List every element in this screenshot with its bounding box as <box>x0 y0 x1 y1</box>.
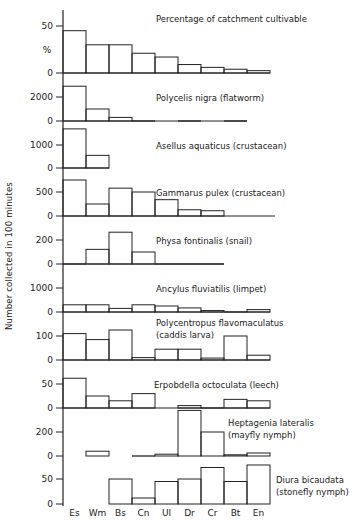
panel-3: 0500Gammarus pulex (crustacean) <box>36 180 285 221</box>
bar <box>109 188 132 216</box>
bar <box>155 349 178 360</box>
bar <box>109 117 132 121</box>
panel-5: 01000Ancylus fluviatilis (limpet) <box>30 283 270 317</box>
bar <box>224 455 247 456</box>
bar <box>178 65 201 73</box>
bar <box>63 31 86 73</box>
tick-label: 2000 <box>30 92 53 102</box>
tick-label: 0 <box>47 211 53 221</box>
panel-0: 050%Percentage of catchment cultivable <box>42 14 307 78</box>
tick-label: 100 <box>36 331 53 341</box>
tick-label: 0 <box>47 355 53 365</box>
bar <box>86 109 109 121</box>
bar <box>224 399 247 408</box>
tick-label: 200 <box>36 427 53 437</box>
bar <box>224 336 247 360</box>
panel-6: 0100Polycentropus flavomaculatus(caddis … <box>36 318 284 365</box>
tick-label: 0 <box>47 499 53 509</box>
panel-title: Percentage of catchment cultivable <box>156 14 307 24</box>
panel-1: 02000Polycelis nigra (flatworm) <box>30 86 264 126</box>
bar <box>201 432 224 456</box>
bar <box>63 305 86 312</box>
bar <box>109 308 132 312</box>
tick-label: 0 <box>47 403 53 413</box>
bar <box>155 482 178 505</box>
tick-label: 200 <box>36 235 53 245</box>
panel-4: 0200Physa fontinalis (snail) <box>36 232 252 269</box>
bar <box>132 53 155 73</box>
bar <box>132 498 155 504</box>
panel-title: Polycentropus flavomaculatus <box>156 318 284 328</box>
category-label: Ul <box>162 508 171 518</box>
bar <box>224 69 247 73</box>
bar <box>155 454 178 456</box>
bar <box>132 305 155 312</box>
panel-9: 050Diura bicaudata(stonefly nymph) <box>42 465 349 509</box>
category-label: Dr <box>184 508 195 518</box>
panel-title: Ancylus fluviatilis (limpet) <box>156 284 266 294</box>
tick-label: 0 <box>47 259 53 269</box>
panel-title: Heptagenia lateralis <box>228 418 314 428</box>
panel-subtitle: (stonefly nymph) <box>276 487 349 497</box>
bar <box>201 67 224 73</box>
panel-title: Asellus aquaticus (crustacean) <box>156 141 286 151</box>
bar <box>178 210 201 216</box>
bar <box>178 349 201 360</box>
bar <box>224 482 247 505</box>
bar <box>86 249 109 264</box>
bar <box>63 129 86 168</box>
bar <box>63 180 86 216</box>
bar <box>86 204 109 216</box>
panel-title: Polycelis nigra (flatworm) <box>156 93 264 103</box>
tick-label: 0 <box>47 68 53 78</box>
bar <box>86 45 109 73</box>
bar <box>63 86 86 121</box>
category-label: Es <box>69 508 80 518</box>
tick-label: 0 <box>47 451 53 461</box>
bar <box>247 453 270 456</box>
panel-title: Physa fontinalis (snail) <box>156 236 252 246</box>
tick-label: 0 <box>47 163 53 173</box>
category-label: Wm <box>89 508 107 518</box>
bar <box>109 401 132 408</box>
tick-label: 1000 <box>30 140 53 150</box>
panel-title: Gammarus pulex (crustacean) <box>156 188 285 198</box>
bar <box>86 155 109 168</box>
bar <box>155 57 178 73</box>
category-label: Cn <box>138 508 150 518</box>
bar <box>201 211 224 216</box>
bar <box>63 334 86 360</box>
bar <box>109 330 132 360</box>
bar <box>132 394 155 408</box>
bar <box>155 200 178 216</box>
bar <box>247 465 270 504</box>
bar <box>155 306 178 312</box>
tick-label: 0 <box>47 116 53 126</box>
category-label: Bs <box>115 508 126 518</box>
bar <box>109 45 132 73</box>
tick-label: 50 <box>42 21 54 31</box>
bar <box>109 479 132 504</box>
bar <box>201 468 224 505</box>
bar <box>132 192 155 216</box>
panel-2: 01000Asellus aquaticus (crustacean) <box>30 129 286 173</box>
y-axis-label: Number collected in 100 minutes <box>4 182 14 330</box>
tick-label: 0 <box>47 307 53 317</box>
unit-label: % <box>43 45 52 55</box>
panel-8: 0200Heptagenia lateralis(mayfly nymph) <box>36 410 315 461</box>
panel-7: 050Erpobdella octoculata (leech) <box>42 378 279 413</box>
bar <box>178 410 201 456</box>
bar <box>63 378 86 408</box>
tick-label: 500 <box>36 187 53 197</box>
bar <box>178 308 201 312</box>
bar <box>132 252 155 264</box>
tick-label: 1000 <box>30 283 53 293</box>
bar <box>247 401 270 408</box>
bar <box>86 396 109 408</box>
category-label: Cr <box>208 508 218 518</box>
panel-subtitle: (mayfly nymph) <box>228 430 296 440</box>
tick-label: 50 <box>42 379 54 389</box>
panel-title: Erpobdella octoculata (leech) <box>154 380 279 390</box>
bar <box>86 340 109 360</box>
bar <box>86 451 109 456</box>
